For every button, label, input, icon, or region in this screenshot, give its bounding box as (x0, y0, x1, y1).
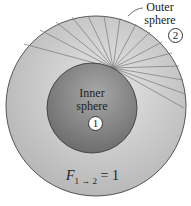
inner-label-line2: sphere (70, 100, 114, 113)
outer-label-line2: sphere (140, 14, 180, 27)
outer-sphere-label: Outer sphere (140, 1, 180, 27)
outer-sphere-number: 2 (168, 28, 183, 43)
view-factor-formula: F1 → 2 = 1 (66, 168, 119, 186)
formula-subscript: 1 → 2 (75, 176, 98, 186)
inner-sphere-label: Inner sphere (70, 87, 114, 113)
formula-symbol: F (66, 168, 75, 183)
inner-sphere-number: 1 (88, 116, 103, 131)
formula-value: = 1 (97, 168, 119, 183)
